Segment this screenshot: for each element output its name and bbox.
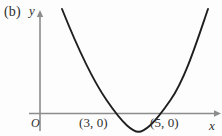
parabola-figure: (b) y x O (3, 0) (5, 0) — [0, 0, 222, 136]
x-axis — [29, 110, 221, 116]
origin-label: O — [31, 117, 40, 129]
x-axis-arrowhead — [214, 110, 221, 116]
panel-tag-label: (b) — [4, 5, 21, 19]
root-label-right: (5, 0) — [150, 116, 179, 129]
x-axis-label: x — [209, 119, 215, 132]
root-label-left: (3, 0) — [79, 116, 108, 129]
y-axis-label: y — [29, 4, 35, 17]
y-axis-arrowhead — [37, 10, 43, 17]
